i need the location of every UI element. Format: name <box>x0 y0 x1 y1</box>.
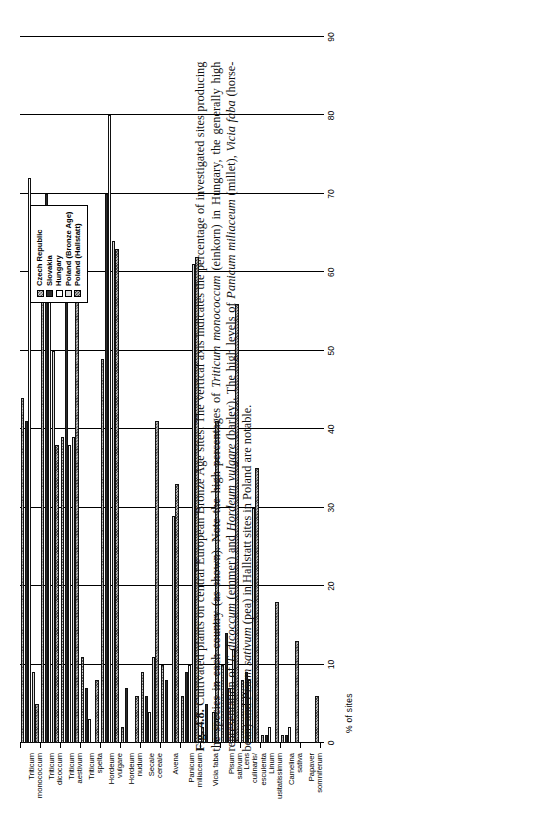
legend-item: Slovakia <box>46 212 54 297</box>
axis-tick-label: 50 <box>326 346 336 355</box>
axis-tick-label: 90 <box>326 32 336 41</box>
category-label: Triticum monococcum <box>28 753 45 801</box>
bar <box>88 719 91 743</box>
axis-tick <box>320 36 324 37</box>
category-label: Triticum aestivum <box>68 753 85 801</box>
figure-area: 0102030405060708090 % of sites Triticum … <box>0 0 400 813</box>
legend-swatch-poland-hallstatt <box>74 290 81 297</box>
category-label: Secale cereale <box>148 753 165 801</box>
gridline <box>20 36 320 37</box>
category-label: Lens culinaris/ esculenta <box>243 753 268 801</box>
legend-item: Poland (Hallstatt) <box>74 212 82 297</box>
value-axis-tick-labels: 0102030405060708090 <box>326 37 344 743</box>
legend-label-poland-bronze-age: Poland (Bronze Age) <box>65 212 73 286</box>
axis-tick-label: 40 <box>326 425 336 434</box>
category-label: Panicum miliaceum <box>188 753 205 801</box>
bar <box>125 688 128 743</box>
axis-tick <box>320 585 324 586</box>
bar <box>155 421 158 743</box>
category-label: Linum usitatissimum <box>268 753 285 801</box>
axis-tick-label: 60 <box>326 268 336 277</box>
axis-tick-label: 70 <box>326 189 336 198</box>
axis-tick-label: 80 <box>326 111 336 120</box>
legend-label-czech-republic: Czech Republic <box>36 229 44 286</box>
axis-tick <box>320 271 324 272</box>
legend-item: Czech Republic <box>36 212 44 297</box>
legend-label-slovakia: Slovakia <box>46 255 54 286</box>
axis-tick <box>320 350 324 351</box>
category-label: Vicia faba <box>212 753 220 786</box>
axis-tick <box>320 193 324 194</box>
bar <box>95 680 98 743</box>
bar <box>75 296 78 743</box>
axis-tick <box>320 428 324 429</box>
figure-caption-block: Fig. 4.8. Cultivated plants on central E… <box>193 62 298 752</box>
chart-legend: Czech Republic Slovakia Hungary Poland (… <box>30 205 88 303</box>
category-label: Avena <box>172 753 180 774</box>
value-axis-title: % of sites <box>344 27 354 743</box>
legend-item: Hungary <box>55 212 63 297</box>
bar <box>35 704 38 743</box>
category-tick <box>320 743 321 748</box>
category-axis-labels: Triticum monococcumTriticum dicoccumTrit… <box>20 745 320 801</box>
bar <box>135 696 138 743</box>
axis-tick-label: 0 <box>326 741 336 746</box>
category-label: Hordeum vulgare <box>108 753 125 801</box>
axis-tick-label: 20 <box>326 581 336 590</box>
legend-swatch-poland-bronze-age <box>65 290 72 297</box>
axis-tick <box>320 664 324 665</box>
category-label: Hordeum nudum <box>128 753 145 801</box>
bar <box>165 680 168 743</box>
bar <box>315 696 318 743</box>
category-label: Camelina sativa <box>288 753 305 801</box>
legend-swatch-czech-republic <box>37 290 44 297</box>
bar <box>115 249 118 743</box>
bar <box>55 445 58 743</box>
legend-item: Poland (Bronze Age) <box>65 212 73 297</box>
axis-tick <box>320 114 324 115</box>
category-label: Triticum spelta <box>88 753 105 801</box>
figure-caption: Fig. 4.8. Cultivated plants on central E… <box>193 62 255 752</box>
category-label: Papaver somniferum <box>308 753 325 801</box>
axis-tick <box>320 507 324 508</box>
legend-swatch-slovakia <box>46 290 53 297</box>
figure-page: 0102030405060708090 % of sites Triticum … <box>0 0 545 813</box>
legend-swatch-hungary <box>56 290 63 297</box>
axis-tick-label: 30 <box>326 503 336 512</box>
legend-label-poland-hallstatt: Poland (Hallstatt) <box>74 224 82 286</box>
category-label: Triticum dicoccum <box>48 753 65 801</box>
bar <box>175 484 178 743</box>
legend-label-hungary: Hungary <box>55 255 63 286</box>
axis-tick-label: 10 <box>326 660 336 669</box>
